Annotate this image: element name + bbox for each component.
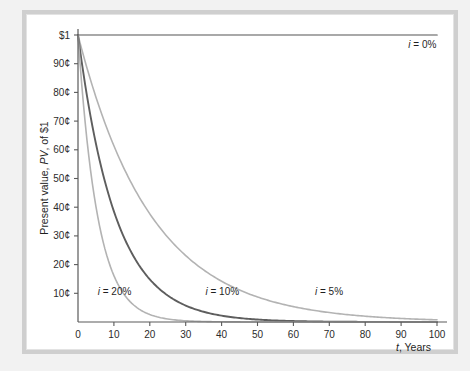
- curve-label-1: i = 5%: [315, 286, 343, 297]
- y-axis-title-part1: Present value,: [38, 165, 50, 235]
- present-value-chart: 10¢20¢30¢40¢50¢60¢70¢80¢90¢$1 0102030405…: [0, 0, 470, 371]
- y-tick-label: 20¢: [53, 259, 70, 270]
- y-tick-label: 70¢: [53, 116, 70, 127]
- x-axis-title-rest: , Years: [399, 341, 431, 353]
- curve-label-0: i = 0%: [408, 39, 436, 50]
- x-tick-label: 50: [252, 329, 264, 340]
- y-tick-label: 50¢: [53, 173, 70, 184]
- y-tick-group: 10¢20¢30¢40¢50¢60¢70¢80¢90¢$1: [53, 30, 78, 299]
- y-axis-title-part2: , of $1: [38, 121, 50, 150]
- curve-label-rest: = 10%: [208, 286, 240, 297]
- x-tick-label: 30: [180, 329, 192, 340]
- x-tick-group: 0102030405060708090100: [75, 322, 446, 340]
- curve-series-1: [78, 35, 437, 320]
- curve-label-rest: = 20%: [100, 286, 132, 297]
- x-tick-label: 40: [216, 329, 228, 340]
- x-axis-title: t, Years: [396, 341, 431, 353]
- x-tick-label: 70: [324, 329, 336, 340]
- curve-label-2: i = 10%: [205, 286, 239, 297]
- x-tick-label: 0: [75, 329, 81, 340]
- x-tick-label: 20: [144, 329, 156, 340]
- x-tick-label: 10: [108, 329, 120, 340]
- y-tick-label: 80¢: [53, 87, 70, 98]
- y-tick-label: 60¢: [53, 144, 70, 155]
- y-axis-title-italic: PV: [38, 150, 50, 165]
- curve-label-rest: = 0%: [411, 39, 437, 50]
- y-tick-label: 30¢: [53, 230, 70, 241]
- plot-area: 10¢20¢30¢40¢50¢60¢70¢80¢90¢$1 0102030405…: [0, 0, 470, 371]
- curve-series-3: [78, 35, 437, 322]
- x-tick-label: 60: [288, 329, 300, 340]
- curve-label-3: i = 20%: [98, 286, 132, 297]
- axes-group: [78, 29, 447, 322]
- curves-group: [78, 35, 437, 322]
- y-tick-label: $1: [59, 30, 71, 41]
- curve-label-rest: = 5%: [317, 286, 343, 297]
- y-axis-title: Present value, PV, of $1: [38, 121, 50, 234]
- curve-label-group: i = 0%i = 5%i = 10%i = 20%: [98, 39, 437, 297]
- y-tick-label: 10¢: [53, 288, 70, 299]
- figure-container: 10¢20¢30¢40¢50¢60¢70¢80¢90¢$1 0102030405…: [0, 0, 470, 371]
- y-tick-label: 90¢: [53, 58, 70, 69]
- y-tick-label: 40¢: [53, 202, 70, 213]
- x-tick-label: 80: [360, 329, 372, 340]
- x-tick-label: 90: [396, 329, 408, 340]
- curve-series-2: [78, 35, 437, 322]
- x-tick-label: 100: [429, 329, 446, 340]
